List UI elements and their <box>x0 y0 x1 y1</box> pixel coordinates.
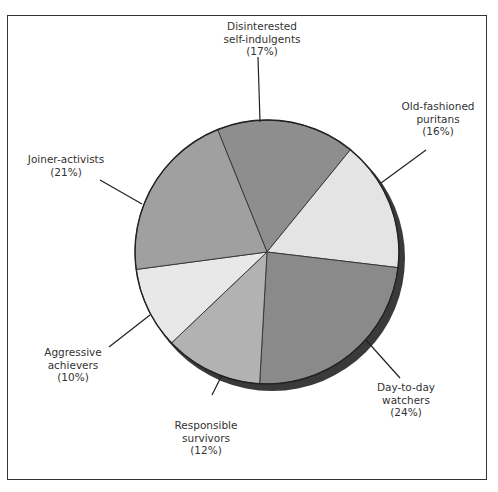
leader-line-achievers <box>109 315 150 347</box>
leader-line-watchers <box>366 340 400 378</box>
label-text: watchers <box>377 394 435 407</box>
label-watchers: Day-to-day watchers (24%) <box>377 381 435 419</box>
label-survivors: Responsible survivors (12%) <box>175 419 238 457</box>
label-percent: (16%) <box>401 125 474 138</box>
label-percent: (10%) <box>44 371 102 384</box>
label-text: Old-fashioned <box>401 100 474 113</box>
label-self-indulgents: Disinterested self-indulgents (17%) <box>224 20 301 58</box>
label-puritans: Old-fashioned puritans (16%) <box>401 100 474 138</box>
label-text: Day-to-day <box>377 381 435 394</box>
label-text: Joiner-activists <box>28 153 104 166</box>
label-percent: (17%) <box>224 45 301 58</box>
label-text: puritans <box>401 113 474 126</box>
label-percent: (12%) <box>175 444 238 457</box>
label-percent: (24%) <box>377 406 435 419</box>
label-joiner-activists: Joiner-activists (21%) <box>28 153 104 178</box>
label-text: achievers <box>44 359 102 372</box>
label-percent: (21%) <box>28 166 104 179</box>
label-text: survivors <box>175 432 238 445</box>
leader-line-joiner-activists <box>100 180 142 204</box>
label-text: self-indulgents <box>224 33 301 46</box>
leader-line-self-indulgents <box>258 57 260 122</box>
leader-line-puritans <box>381 150 426 183</box>
pie-slice-day-to-day-watchers <box>260 252 398 384</box>
label-text: Responsible <box>175 419 238 432</box>
label-text: Disinterested <box>224 20 301 33</box>
label-achievers: Aggressive achievers (10%) <box>44 346 102 384</box>
label-text: Aggressive <box>44 346 102 359</box>
